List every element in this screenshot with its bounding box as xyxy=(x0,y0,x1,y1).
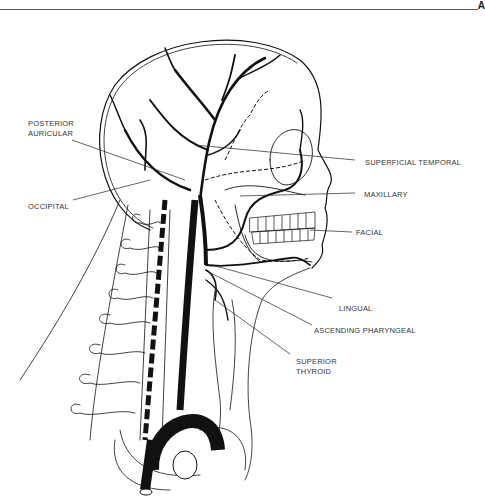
label-occipital: OCCIPITAL xyxy=(28,202,69,212)
label-posterior-auricular: POSTERIOR AURICULAR xyxy=(28,119,74,139)
head-neck-arteries-illustration xyxy=(0,0,485,498)
label-ascending-pharyngeal: ASCENDING PHARYNGEAL xyxy=(314,326,416,336)
label-maxillary: MAXILLARY xyxy=(364,190,408,200)
label-facial: FACIAL xyxy=(356,228,383,238)
label-lingual: LINGUAL xyxy=(339,304,373,314)
label-superior-thyroid: SUPERIOR THYROID xyxy=(296,357,337,377)
label-superficial-temporal: SUPERFICIAL TEMPORAL xyxy=(365,158,461,168)
